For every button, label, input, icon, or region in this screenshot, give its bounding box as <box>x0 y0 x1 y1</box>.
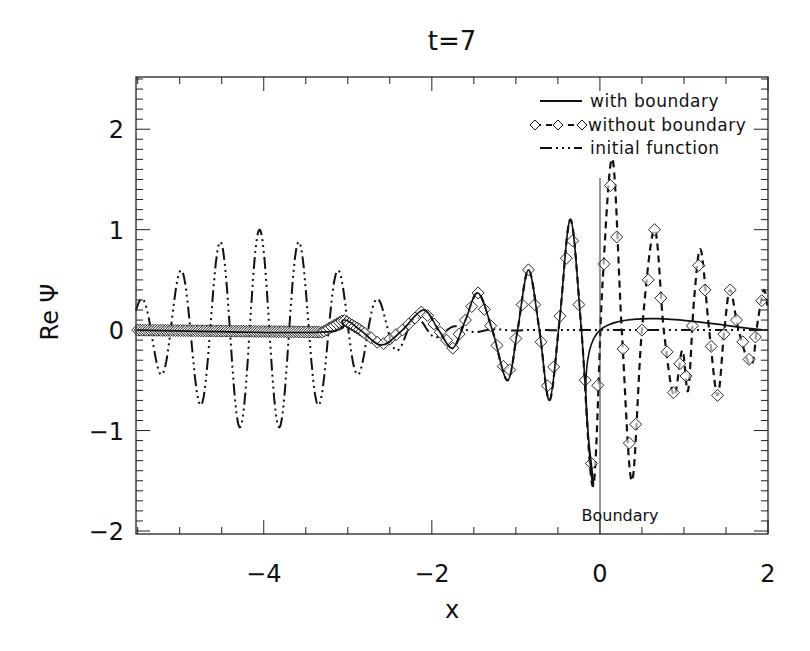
svg-text:with boundary: with boundary <box>590 91 719 111</box>
x-tick-label: 0 <box>592 560 607 588</box>
y-tick-label: 0 <box>109 317 124 345</box>
x-tick-label: 2 <box>760 560 775 588</box>
series-without-boundary <box>138 159 768 486</box>
chart-title: t=7 <box>428 26 477 56</box>
y-tick-label: −1 <box>89 418 124 446</box>
x-tick-label: −4 <box>246 560 281 588</box>
x-tick-label: −2 <box>414 560 449 588</box>
svg-text:without boundary: without boundary <box>588 115 746 135</box>
legend-item-initial-function: initial function <box>540 138 720 158</box>
legend: with boundary without boundary initial f… <box>530 91 746 158</box>
series-layer <box>132 159 768 486</box>
boundary-annotation: Boundary <box>581 506 658 525</box>
svg-text:initial function: initial function <box>590 138 720 158</box>
diamond-markers <box>132 180 768 470</box>
x-axis-label: x <box>445 596 459 624</box>
y-tick-label: 2 <box>109 116 124 144</box>
y-tick-label: −2 <box>89 518 124 546</box>
y-axis-label: Re Ψ <box>36 284 64 341</box>
legend-item-without-boundary: without boundary <box>530 115 746 135</box>
diamond-marker-icon <box>530 120 587 130</box>
y-tick-label: 1 <box>109 217 124 245</box>
chart: t=7 −4−202−2−1012 x Re Ψ Boundary with b… <box>0 0 810 651</box>
legend-item-with-boundary: with boundary <box>540 91 719 111</box>
